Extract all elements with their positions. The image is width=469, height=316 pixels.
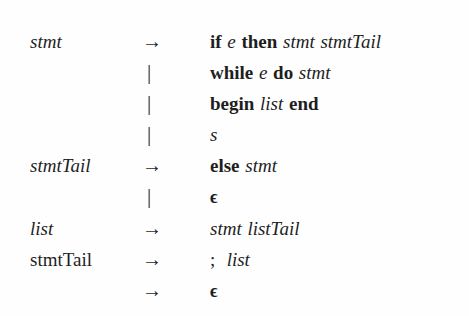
nonterminal-symbol: stmt — [245, 155, 277, 176]
rightwards-arrow-icon: → — [142, 213, 162, 244]
nonterminal-symbol: e — [227, 31, 235, 52]
terminal-keyword: begin — [210, 93, 254, 114]
nonterminal-symbol: stmt — [299, 62, 331, 83]
production-rhs: ;list — [202, 244, 381, 275]
production-rule-row: stmtTail→elsestmt — [30, 150, 381, 181]
production-operator: → — [140, 150, 202, 181]
nonterminal-symbol: list — [260, 93, 283, 114]
production-operator: → — [140, 213, 202, 244]
production-lhs — [30, 181, 140, 213]
nonterminal-symbol: list — [30, 218, 53, 239]
production-lhs — [30, 57, 140, 88]
production-lhs: list — [30, 213, 140, 244]
nonterminal-symbol: stmt — [283, 31, 315, 52]
alternation-bar-icon: | — [142, 88, 151, 119]
production-rule-row: |ϵ — [30, 181, 381, 213]
nonterminal-symbol: e — [259, 62, 267, 83]
production-operator: → — [140, 26, 202, 57]
production-rhs: ϵ — [202, 275, 381, 307]
terminal-keyword: while — [210, 62, 253, 83]
production-lhs: stmtTail — [30, 244, 140, 275]
production-rhs: ϵ — [202, 181, 381, 213]
nonterminal-symbol: listTail — [247, 218, 299, 239]
epsilon-symbol: ϵ — [210, 187, 218, 207]
nonterminal-symbol: stmtTail — [30, 155, 91, 176]
rightwards-arrow-icon: → — [142, 26, 162, 57]
nonterminal-symbol: stmtTail — [320, 31, 381, 52]
terminal-keyword: else — [210, 155, 240, 176]
production-operator: → — [140, 275, 202, 307]
production-rhs: whileedostmt — [202, 57, 381, 88]
production-lhs — [30, 88, 140, 119]
alternation-bar-icon: | — [142, 181, 151, 212]
alternation-bar-icon: | — [142, 57, 151, 88]
rightwards-arrow-icon: → — [142, 275, 162, 306]
grammar-figure: stmt→ifethenstmtstmtTail|whileedostmt|be… — [0, 0, 469, 316]
production-rhs: stmtlistTail — [202, 213, 381, 244]
production-rule-row: |whileedostmt — [30, 57, 381, 88]
production-operator: | — [140, 119, 202, 150]
production-rhs: ifethenstmtstmtTail — [202, 26, 381, 57]
production-rule-row: |beginlistend — [30, 88, 381, 119]
epsilon-symbol: ϵ — [210, 281, 218, 301]
production-rule-row: stmt→ifethenstmtstmtTail — [30, 26, 381, 57]
production-rhs: beginlistend — [202, 88, 381, 119]
production-operator: → — [140, 244, 202, 275]
production-rules-body: stmt→ifethenstmtstmtTail|whileedostmt|be… — [30, 26, 381, 307]
production-rule-row: stmtTail→;list — [30, 244, 381, 275]
production-rule-row: |s — [30, 119, 381, 150]
rightwards-arrow-icon: → — [142, 244, 162, 275]
terminal-punctuation: ; — [210, 249, 215, 270]
production-lhs: stmt — [30, 26, 140, 57]
nonterminal-symbol: stmtTail — [30, 249, 92, 270]
alternation-bar-icon: | — [142, 119, 151, 150]
nonterminal-symbol: stmt — [30, 31, 62, 52]
production-lhs: stmtTail — [30, 150, 140, 181]
production-rhs: elsestmt — [202, 150, 381, 181]
terminal-keyword: if — [210, 31, 222, 52]
production-lhs — [30, 119, 140, 150]
production-lhs — [30, 275, 140, 307]
nonterminal-symbol: stmt — [210, 218, 242, 239]
nonterminal-symbol: s — [210, 124, 217, 145]
terminal-keyword: do — [273, 62, 293, 83]
terminal-keyword: then — [241, 31, 277, 52]
production-rhs: s — [202, 119, 381, 150]
production-rule-row: list→stmtlistTail — [30, 213, 381, 244]
production-operator: | — [140, 181, 202, 213]
production-operator: | — [140, 88, 202, 119]
production-rule-row: →ϵ — [30, 275, 381, 307]
terminal-keyword: end — [289, 93, 319, 114]
production-rules-table: stmt→ifethenstmtstmtTail|whileedostmt|be… — [30, 26, 381, 307]
nonterminal-symbol: list — [227, 249, 250, 270]
rightwards-arrow-icon: → — [142, 150, 162, 181]
production-operator: | — [140, 57, 202, 88]
